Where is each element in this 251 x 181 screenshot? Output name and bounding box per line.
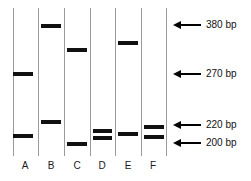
lane-divider-1 [38, 8, 39, 156]
size-marker-label-270: 270 bp [206, 68, 237, 80]
lane-divider-6 [166, 8, 167, 156]
gel-band-lane-d-1 [93, 129, 112, 133]
lane-divider-5 [141, 8, 142, 156]
gel-band-lane-a-1 [13, 72, 33, 76]
arrow-left-icon [173, 21, 201, 29]
gel-band-lane-c-2 [67, 142, 87, 146]
size-marker-label-220: 220 bp [206, 119, 237, 131]
lane-label-c: C [66, 160, 88, 172]
gel-band-lane-e-2 [118, 132, 138, 136]
size-marker-270: 270 bp [173, 67, 237, 81]
lane-divider-3 [90, 8, 91, 156]
size-marker-380: 380 bp [173, 18, 237, 32]
gel-band-lane-b-2 [41, 120, 61, 124]
gel-band-lane-d-2 [93, 136, 112, 140]
gel-electrophoresis-figure: ABCDEF 380 bp270 bp220 bp200 bp [0, 0, 251, 181]
size-marker-220: 220 bp [173, 118, 237, 132]
lane-label-d: D [91, 160, 113, 172]
size-marker-label-380: 380 bp [206, 19, 237, 31]
lane-label-e: E [117, 160, 139, 172]
gel-band-lane-f-2 [144, 135, 164, 139]
arrow-left-icon [173, 139, 201, 147]
lane-divider-2 [64, 8, 65, 156]
gel-band-lane-e-1 [118, 41, 138, 45]
gel-band-lane-f-1 [144, 125, 164, 129]
gel-band-lane-a-2 [13, 134, 33, 138]
lane-label-a: A [14, 160, 36, 172]
lane-divider-4 [115, 8, 116, 156]
gel-band-lane-b-1 [41, 24, 61, 28]
size-marker-label-200: 200 bp [206, 137, 237, 149]
arrow-left-icon [173, 121, 201, 129]
gel-band-lane-c-1 [67, 48, 87, 52]
arrow-left-icon [173, 70, 201, 78]
size-marker-200: 200 bp [173, 136, 237, 150]
lane-label-f: F [142, 160, 164, 172]
lane-label-b: B [40, 160, 62, 172]
